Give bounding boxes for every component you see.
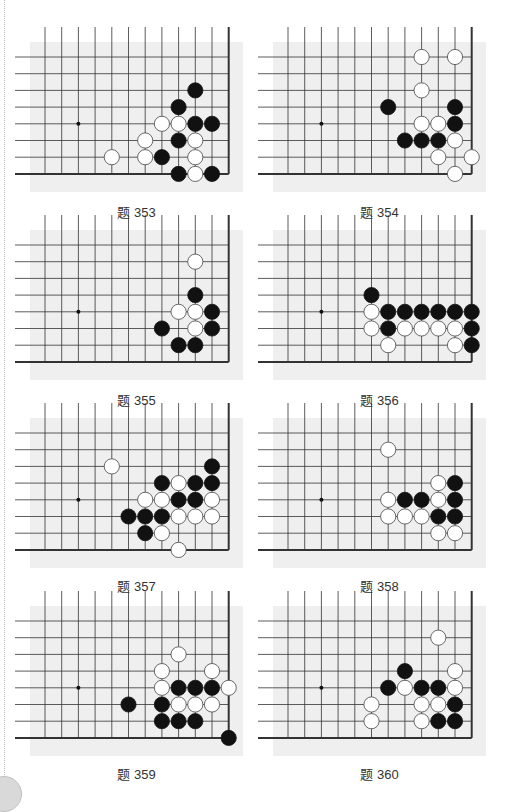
black-stone bbox=[171, 100, 186, 115]
black-stone bbox=[188, 714, 203, 729]
black-stone bbox=[121, 509, 136, 524]
black-stone bbox=[204, 321, 219, 336]
white-stone bbox=[431, 630, 446, 645]
black-stone bbox=[171, 166, 186, 181]
white-stone bbox=[188, 254, 203, 269]
black-stone bbox=[154, 697, 169, 712]
black-stone bbox=[464, 338, 479, 353]
white-stone bbox=[188, 321, 203, 336]
white-stone bbox=[188, 150, 203, 165]
black-stone bbox=[414, 680, 429, 695]
white-stone bbox=[364, 714, 379, 729]
black-stone bbox=[188, 288, 203, 303]
go-board bbox=[30, 42, 243, 192]
board-grid bbox=[273, 42, 486, 192]
black-stone bbox=[154, 150, 169, 165]
white-stone bbox=[447, 133, 462, 148]
black-stone bbox=[447, 116, 462, 131]
black-stone bbox=[171, 714, 186, 729]
black-stone bbox=[154, 509, 169, 524]
black-stone bbox=[171, 133, 186, 148]
white-stone bbox=[447, 526, 462, 541]
black-stone bbox=[381, 321, 396, 336]
white-stone bbox=[381, 442, 396, 457]
board-grid bbox=[273, 418, 486, 568]
black-stone bbox=[204, 166, 219, 181]
star-point bbox=[76, 122, 80, 126]
black-stone bbox=[221, 730, 236, 745]
white-stone bbox=[431, 321, 446, 336]
black-stone bbox=[154, 476, 169, 491]
black-stone bbox=[431, 304, 446, 319]
white-stone bbox=[204, 492, 219, 507]
white-stone bbox=[188, 133, 203, 148]
go-board bbox=[30, 418, 243, 568]
white-stone bbox=[414, 83, 429, 98]
black-stone bbox=[447, 476, 462, 491]
black-stone bbox=[447, 509, 462, 524]
white-stone bbox=[414, 321, 429, 336]
black-stone bbox=[414, 492, 429, 507]
black-stone bbox=[431, 714, 446, 729]
go-board bbox=[30, 230, 243, 380]
star-point bbox=[319, 686, 323, 690]
black-stone bbox=[397, 304, 412, 319]
white-stone bbox=[204, 697, 219, 712]
white-stone bbox=[381, 509, 396, 524]
black-stone bbox=[188, 680, 203, 695]
white-stone bbox=[188, 166, 203, 181]
black-stone bbox=[447, 100, 462, 115]
white-stone bbox=[364, 304, 379, 319]
white-stone bbox=[431, 476, 446, 491]
white-stone bbox=[381, 338, 396, 353]
white-stone bbox=[381, 492, 396, 507]
black-stone bbox=[431, 509, 446, 524]
black-stone bbox=[204, 680, 219, 695]
white-stone bbox=[364, 697, 379, 712]
white-stone bbox=[171, 697, 186, 712]
black-stone bbox=[447, 714, 462, 729]
white-stone bbox=[397, 321, 412, 336]
black-stone bbox=[204, 116, 219, 131]
white-stone bbox=[431, 526, 446, 541]
board-grid bbox=[30, 606, 243, 756]
white-stone bbox=[171, 647, 186, 662]
white-stone bbox=[138, 150, 153, 165]
white-stone bbox=[154, 492, 169, 507]
black-stone bbox=[171, 338, 186, 353]
white-stone bbox=[188, 697, 203, 712]
black-stone bbox=[171, 492, 186, 507]
board-grid bbox=[273, 230, 486, 380]
white-stone bbox=[171, 116, 186, 131]
white-stone bbox=[171, 509, 186, 524]
white-stone bbox=[414, 116, 429, 131]
white-stone bbox=[431, 492, 446, 507]
white-stone bbox=[171, 542, 186, 557]
go-board bbox=[273, 230, 486, 380]
star-point bbox=[319, 498, 323, 502]
white-stone bbox=[447, 338, 462, 353]
white-stone bbox=[414, 697, 429, 712]
star-point bbox=[76, 310, 80, 314]
go-board bbox=[273, 606, 486, 756]
board-grid bbox=[30, 230, 243, 380]
white-stone bbox=[364, 321, 379, 336]
page-number-badge bbox=[0, 776, 22, 812]
white-stone bbox=[138, 492, 153, 507]
page-margin-dotted-line bbox=[4, 0, 5, 775]
white-stone bbox=[204, 509, 219, 524]
black-stone bbox=[154, 714, 169, 729]
white-stone bbox=[414, 509, 429, 524]
black-stone bbox=[464, 304, 479, 319]
white-stone bbox=[447, 49, 462, 64]
black-stone bbox=[154, 321, 169, 336]
black-stone bbox=[121, 697, 136, 712]
black-stone bbox=[204, 476, 219, 491]
board-grid bbox=[30, 42, 243, 192]
go-board bbox=[273, 418, 486, 568]
white-stone bbox=[154, 664, 169, 679]
black-stone bbox=[381, 304, 396, 319]
black-stone bbox=[188, 492, 203, 507]
black-stone bbox=[414, 304, 429, 319]
problem-caption: 题 359 bbox=[30, 764, 243, 783]
